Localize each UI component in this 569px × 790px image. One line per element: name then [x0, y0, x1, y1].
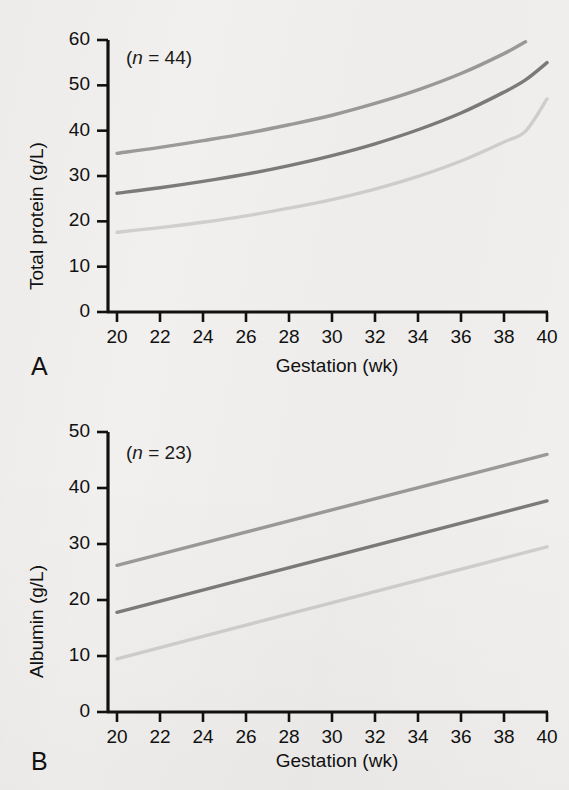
x-axis-tick-label: 36: [439, 326, 483, 348]
reference-curve: [117, 63, 547, 194]
y-axis-tick-label: 10: [38, 644, 90, 666]
y-axis-tick-label: 0: [38, 300, 90, 322]
panel-b-letter: B: [31, 747, 48, 776]
x-axis-tick-label: 34: [396, 726, 440, 748]
x-axis-tick-label: 32: [353, 326, 397, 348]
x-axis-tick-label: 20: [95, 326, 139, 348]
x-axis-tick-label: 26: [224, 326, 268, 348]
x-axis-tick-label: 38: [482, 726, 526, 748]
x-axis-tick-label: 20: [95, 726, 139, 748]
x-axis-tick-label: 26: [224, 726, 268, 748]
x-axis-tick-label: 30: [310, 726, 354, 748]
reference-curve: [117, 99, 547, 232]
y-axis-tick-label: 20: [38, 588, 90, 610]
reference-curve: [117, 547, 547, 659]
reference-curve: [117, 501, 547, 612]
y-axis-tick-label: 30: [38, 164, 90, 186]
n-symbol: n: [132, 47, 143, 68]
x-axis-tick-label: 32: [353, 726, 397, 748]
y-axis-tick-label: 60: [38, 28, 90, 50]
panel-a-letter: A: [31, 352, 48, 381]
panel-b-x-axis-title: Gestation (wk): [217, 750, 457, 772]
x-axis-tick-label: 28: [267, 326, 311, 348]
reference-curve: [117, 454, 547, 565]
y-axis-tick-label: 0: [38, 700, 90, 722]
figure-container: (n = 44) Total protein (g/L) Gestation (…: [0, 0, 569, 790]
x-axis-tick-label: 30: [310, 326, 354, 348]
panel-b-n-annotation: (n = 23): [126, 442, 192, 464]
n-symbol: n: [132, 442, 143, 463]
x-axis-tick-label: 34: [396, 326, 440, 348]
x-axis-tick-label: 36: [439, 726, 483, 748]
panel-a-n-annotation: (n = 44): [126, 47, 192, 69]
y-axis-tick-label: 40: [38, 476, 90, 498]
x-axis-tick-label: 22: [138, 326, 182, 348]
x-axis-tick-label: 38: [482, 326, 526, 348]
y-axis-tick-label: 40: [38, 119, 90, 141]
panel-a: (n = 44) Total protein (g/L) Gestation (…: [0, 0, 569, 395]
y-axis-tick-label: 10: [38, 255, 90, 277]
x-axis-tick-label: 28: [267, 726, 311, 748]
y-axis-tick-label: 50: [38, 420, 90, 442]
y-axis-tick-label: 20: [38, 209, 90, 231]
x-axis-tick-label: 24: [181, 726, 225, 748]
x-axis-tick-label: 22: [138, 726, 182, 748]
panel-b: (n = 23) Albumin (g/L) Gestation (wk) B …: [0, 395, 569, 790]
x-axis-tick-label: 24: [181, 326, 225, 348]
y-axis-tick-label: 30: [38, 532, 90, 554]
x-axis-tick-label: 40: [525, 726, 569, 748]
panel-a-x-axis-title: Gestation (wk): [217, 355, 457, 377]
x-axis-tick-label: 40: [525, 326, 569, 348]
y-axis-tick-label: 50: [38, 73, 90, 95]
